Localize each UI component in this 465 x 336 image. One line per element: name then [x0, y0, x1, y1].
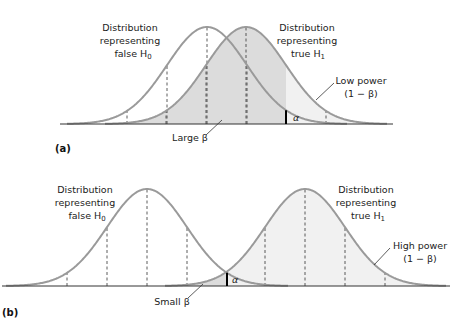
power-label-line1: Low power — [335, 75, 386, 86]
power-leader-line-b — [374, 248, 390, 265]
beta-label-b: Small β — [154, 296, 189, 307]
h1-label-line3-b: true H1 — [351, 210, 385, 223]
h1-label-line2-b: representing — [336, 197, 396, 208]
power-diagram: Distribution representing false H0 Distr… — [0, 0, 465, 336]
power-label-line2-b: (1 − β) — [403, 253, 437, 264]
h1-label-line3: true H1 — [291, 48, 325, 61]
power-leader-line — [316, 83, 334, 100]
power-label-line1-b: High power — [393, 240, 447, 251]
h1-label-line1-b: Distribution — [338, 184, 393, 195]
h1-label-line2: representing — [277, 35, 337, 46]
power-label-line2: (1 − β) — [344, 88, 378, 99]
alpha-label-b: α — [232, 274, 239, 285]
alpha-label-a: α — [293, 112, 300, 123]
beta-label-a: Large β — [172, 132, 208, 143]
h0-label-line2-b: representing — [55, 197, 115, 208]
panel-label-b: (b) — [2, 307, 18, 318]
h0-label-line1-b: Distribution — [57, 184, 112, 195]
panel-label-a: (a) — [55, 143, 71, 154]
h1-label-line1: Distribution — [279, 22, 334, 33]
h0-label-line1: Distribution — [102, 22, 157, 33]
h0-label-line3: false H0 — [114, 48, 151, 61]
h0-label-line2: representing — [100, 35, 160, 46]
h0-label-line3-b: false H0 — [68, 210, 105, 223]
panel-a-low-power: Distribution representing false H0 Distr… — [55, 22, 393, 154]
panel-b-high-power: Distribution representing false H0 Distr… — [2, 184, 450, 318]
